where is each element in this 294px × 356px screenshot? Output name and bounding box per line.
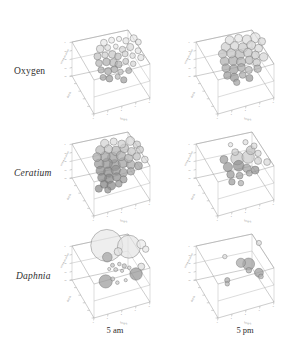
bubble-marker (235, 34, 243, 42)
bubble-marker (136, 146, 143, 153)
plot-3d-box: 02040608002468concentrationdepthlength (58, 120, 166, 224)
bubble-marker (113, 44, 118, 49)
bubble-marker (96, 60, 103, 67)
row-label-oxygen: Oxygen (14, 66, 45, 76)
bubble-marker (227, 171, 235, 179)
bubble-marker (232, 149, 239, 156)
bubble-marker (254, 157, 261, 164)
bubble-marker (111, 277, 115, 281)
bubble-marker (133, 153, 141, 161)
bubble-marker (246, 170, 252, 176)
bubble-marker (135, 39, 141, 45)
bubble-marker (122, 51, 128, 57)
axis-title-depth: depth (190, 295, 196, 303)
bubble-marker (105, 68, 112, 75)
bubble-marker (118, 262, 122, 266)
svg-text:4: 4 (121, 313, 123, 315)
bubble-marker (256, 240, 261, 245)
svg-text:2: 2 (231, 113, 232, 115)
svg-text:80: 80 (189, 75, 192, 77)
bubble-marker (224, 72, 232, 80)
bubble-marker (109, 37, 115, 43)
svg-text:0: 0 (65, 143, 67, 145)
svg-text:0: 0 (217, 117, 219, 119)
bubble-marker (122, 264, 126, 268)
svg-text:60: 60 (189, 271, 192, 273)
bubble-marker (115, 53, 122, 60)
axis-title-depth: depth (66, 91, 72, 99)
bubble-marker (138, 263, 145, 270)
bubble-marker (138, 54, 144, 60)
svg-text:60: 60 (65, 169, 68, 171)
bubble-marker (123, 38, 129, 44)
svg-text:60: 60 (65, 271, 68, 273)
axis-title-depth: depth (190, 91, 196, 99)
panel-daphnia-5am: 02040608002468concentrationdepthlength (58, 222, 166, 326)
svg-text:6: 6 (135, 207, 137, 209)
plot-3d-box: 02040608002468concentrationdepthlength (182, 120, 290, 224)
svg-text:0: 0 (65, 41, 67, 43)
bubble-marker (236, 172, 243, 179)
bubble-marker (94, 53, 101, 60)
bubble-marker (234, 79, 240, 85)
bubble-marker (225, 282, 229, 286)
svg-text:4: 4 (245, 211, 247, 213)
svg-text:2: 2 (107, 113, 108, 115)
bubble-marker (126, 68, 132, 74)
svg-text:6: 6 (135, 309, 137, 311)
svg-text:8: 8 (149, 101, 151, 103)
bubble-marker (229, 65, 238, 74)
bubble-marker (105, 45, 111, 51)
svg-text:2: 2 (231, 317, 232, 319)
svg-text:80: 80 (65, 279, 68, 281)
bubble-marker (120, 269, 123, 272)
svg-text:0: 0 (65, 245, 67, 247)
svg-text:8: 8 (149, 203, 151, 205)
bubble-marker (102, 52, 108, 58)
panel-oxygen-5pm: 02040608002468concentrationdepthlength (182, 18, 290, 122)
bubble-marker (113, 173, 121, 181)
bubble-marker (115, 180, 122, 187)
bubble-marker (245, 56, 253, 64)
bubble-marker (124, 279, 127, 282)
bubble-marker (142, 246, 148, 252)
svg-text:0: 0 (217, 321, 219, 323)
panel-oxygen-5am: 02040608002468concentrationdepthlength (58, 18, 166, 122)
bubble-marker (238, 180, 244, 186)
bubble-marker (108, 267, 111, 270)
bubble-marker (245, 66, 252, 73)
svg-text:4: 4 (245, 313, 247, 315)
bubble-marker (103, 58, 111, 66)
svg-text:0: 0 (189, 245, 191, 247)
svg-text:2: 2 (231, 215, 232, 217)
bubble-marker (127, 266, 131, 270)
bubble-marker (237, 63, 245, 71)
svg-text:2: 2 (107, 317, 108, 319)
svg-text:8: 8 (273, 305, 275, 307)
svg-text:0: 0 (217, 219, 219, 221)
bubble-marker (110, 263, 114, 267)
column-label-5pm: 5 pm (215, 325, 275, 335)
bubble-marker (135, 48, 141, 54)
bubble-marker (259, 53, 267, 61)
bubble-marker (244, 48, 253, 57)
bubble-marker (103, 252, 113, 262)
bubble-marker (141, 156, 148, 163)
bubble-marker (258, 38, 266, 46)
axis-title-length: length (244, 321, 252, 326)
svg-text:6: 6 (259, 105, 261, 107)
bubble-marker (106, 75, 113, 82)
bubble-marker (115, 74, 120, 79)
bubble-marker (264, 159, 271, 166)
bubble-marker (259, 274, 264, 279)
bubble-marker (222, 64, 230, 72)
bubble-marker (254, 65, 262, 73)
bubble-marker (95, 185, 102, 192)
bubble-marker (116, 281, 120, 285)
column-label-5am: 5 am (85, 325, 145, 335)
svg-text:0: 0 (189, 41, 191, 43)
svg-text:0: 0 (93, 321, 95, 323)
bubble-marker (100, 74, 106, 80)
panel-ceratium-5am: 02040608002468concentrationdepthlength (58, 120, 166, 224)
bubble-marker (223, 254, 227, 258)
